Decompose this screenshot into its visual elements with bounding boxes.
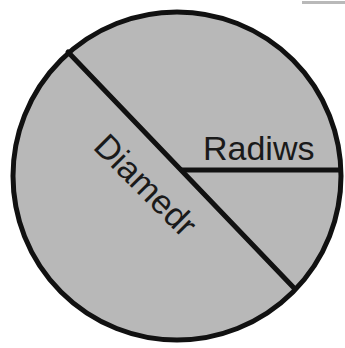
- scan-edge-artifact-icon: [302, 1, 345, 4]
- diagram-canvas: Diamedr Radiws: [0, 0, 345, 348]
- radius-label: Radiws: [203, 129, 314, 167]
- circle-geometry-diagram: Diamedr Radiws: [0, 0, 345, 348]
- circle-shape: [13, 12, 341, 340]
